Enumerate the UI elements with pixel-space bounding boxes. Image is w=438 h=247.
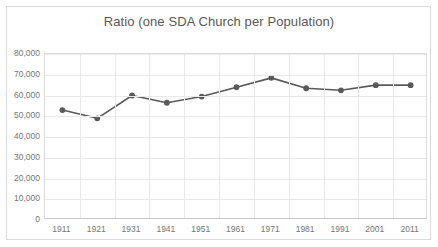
x-axis-tick-label: 1981 (296, 224, 315, 234)
x-axis-tick-label: 1931 (122, 224, 141, 234)
x-axis-tick-label: 1971 (261, 224, 280, 234)
x-axis-tick-label: 1911 (52, 224, 70, 234)
x-axis-tick-label: 1941 (156, 224, 175, 234)
x-axis-tick-label: 1991 (330, 224, 349, 234)
chart-card: Ratio (one SDA Church per Population) 01… (0, 0, 438, 247)
x-axis-tick-label: 2011 (400, 224, 418, 234)
x-axis-tick-label: 1951 (191, 224, 210, 234)
x-axis-tick-labels: 1911192119311941195119611971198119912001… (0, 0, 438, 247)
x-axis-tick-label: 1921 (87, 224, 106, 234)
x-axis-tick-label: 1961 (226, 224, 245, 234)
x-axis-tick-label: 2001 (365, 224, 384, 234)
